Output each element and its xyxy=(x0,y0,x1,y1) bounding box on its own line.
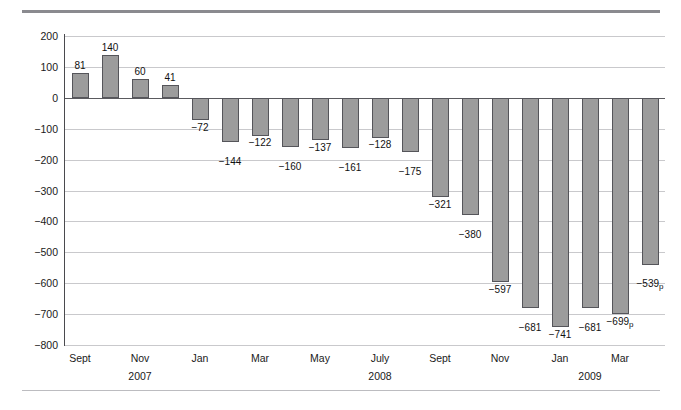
bar-value-label: −72 xyxy=(178,122,222,133)
x-axis-year-label: 2007 xyxy=(110,370,170,382)
bar[interactable] xyxy=(102,55,119,98)
bar[interactable] xyxy=(252,98,269,136)
bar-value-label: −128 xyxy=(358,139,402,150)
bar[interactable] xyxy=(372,98,389,138)
bar[interactable] xyxy=(342,98,359,148)
bar[interactable] xyxy=(312,98,329,140)
bar-value-label: −539p xyxy=(628,278,672,290)
y-tick-label: 100 xyxy=(2,61,58,73)
bar[interactable] xyxy=(222,98,239,142)
y-tick-label: −800 xyxy=(2,339,58,351)
bar-value-label: −144 xyxy=(208,156,252,167)
chart-figure: Hundred thousands 2001000−100−200−300−40… xyxy=(0,0,681,410)
x-tick-label: July xyxy=(355,352,405,364)
bar-value-label: 140 xyxy=(88,42,132,53)
bar[interactable] xyxy=(522,98,539,308)
y-tick-label: 0 xyxy=(2,92,58,104)
y-tick-label: −700 xyxy=(2,308,58,320)
bar-value-label: −175 xyxy=(388,166,432,177)
y-tick-label: −100 xyxy=(2,123,58,135)
bar[interactable] xyxy=(192,98,209,120)
bar[interactable] xyxy=(282,98,299,147)
bar[interactable] xyxy=(552,98,569,327)
y-tick-label: −300 xyxy=(2,185,58,197)
bar-value-label: −699p xyxy=(598,316,642,328)
x-axis-year-label: 2009 xyxy=(560,370,620,382)
bar[interactable] xyxy=(642,98,659,265)
bar-value-label: −122 xyxy=(238,137,282,148)
y-tick-label: −600 xyxy=(2,277,58,289)
bar[interactable] xyxy=(162,85,179,98)
bar-value-label: −597 xyxy=(478,284,522,295)
x-tick-label: Nov xyxy=(475,352,525,364)
bar[interactable] xyxy=(582,98,599,308)
bar[interactable] xyxy=(402,98,419,152)
bar[interactable] xyxy=(612,98,629,314)
bar[interactable] xyxy=(72,73,89,98)
bar-value-label: 41 xyxy=(148,72,192,83)
bottom-divider-rule xyxy=(22,390,660,391)
x-tick-label: May xyxy=(295,352,345,364)
bar[interactable] xyxy=(462,98,479,215)
y-tick-label: −500 xyxy=(2,246,58,258)
x-tick-label: Sept xyxy=(415,352,465,364)
x-tick-label: Mar xyxy=(595,352,645,364)
y-tick-label: 200 xyxy=(2,30,58,42)
bar[interactable] xyxy=(432,98,449,197)
bar-value-label: −161 xyxy=(328,162,372,173)
bar-value-label: 81 xyxy=(58,60,102,71)
y-tick-label: −200 xyxy=(2,154,58,166)
top-divider-rule xyxy=(22,10,660,13)
gridline--800 xyxy=(65,345,665,346)
bar[interactable] xyxy=(492,98,509,282)
bar[interactable] xyxy=(132,79,149,98)
bar-value-label: −137 xyxy=(298,142,342,153)
y-tick-label: −400 xyxy=(2,215,58,227)
bar-value-label: −160 xyxy=(268,161,312,172)
bar-value-label: −380 xyxy=(448,229,492,240)
x-tick-label: Sept xyxy=(55,352,105,364)
x-axis-year-label: 2008 xyxy=(350,370,410,382)
x-tick-label: Mar xyxy=(235,352,285,364)
x-tick-label: Nov xyxy=(115,352,165,364)
bar-value-label: −321 xyxy=(418,199,462,210)
x-tick-label: Jan xyxy=(535,352,585,364)
x-tick-label: Jan xyxy=(175,352,225,364)
